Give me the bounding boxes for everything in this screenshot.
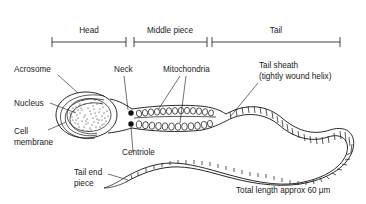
label-neck: Neck (114, 65, 134, 74)
sperm-cell-diagram: Head Middle piece Tail Acrosome Nucleus … (0, 0, 366, 204)
label-tail-sheath-line2: (tightly wound helix) (259, 72, 332, 81)
label-tail-end-piece-line1: Tail end (74, 168, 103, 177)
label-acrosome: Acrosome (14, 65, 51, 74)
label-cell-membrane-line2: membrane (14, 138, 54, 147)
label-tail-sheath-line1: Tail sheath (259, 61, 299, 70)
label-centriole: Centriole (122, 148, 155, 157)
text-layer: Head Middle piece Tail Acrosome Nucleus … (0, 0, 366, 204)
scale-label-head: Head (79, 26, 99, 35)
annotation-total-length: Total length approx 60 μm (236, 186, 331, 195)
scale-label-middle-piece: Middle piece (147, 26, 193, 35)
scale-label-tail: Tail (270, 26, 282, 35)
label-nucleus: Nucleus (14, 99, 44, 108)
label-tail-end-piece-line2: piece (74, 179, 94, 188)
label-mitochondria: Mitochondria (163, 65, 210, 74)
label-cell-membrane-line1: Cell (14, 127, 28, 136)
